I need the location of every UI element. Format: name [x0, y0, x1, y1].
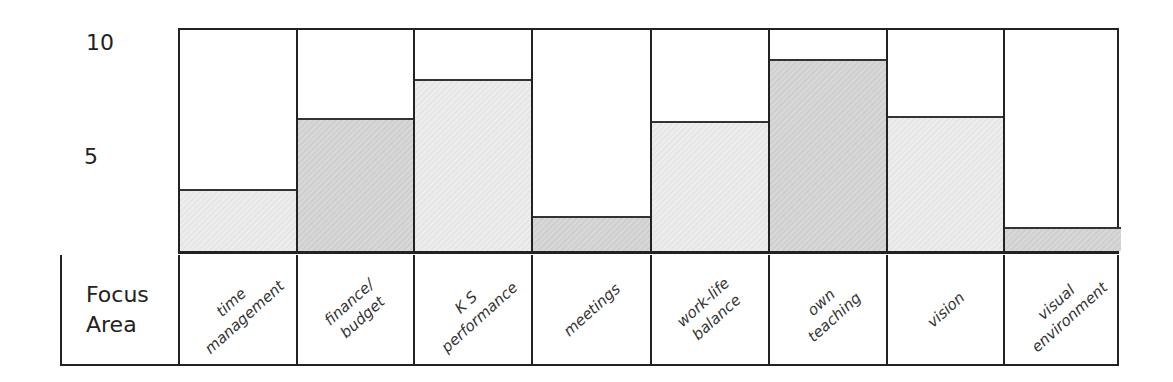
category-label: K Sperformance: [424, 262, 523, 357]
category-label-cell: meetings: [533, 255, 652, 364]
category-label-cell: finance/budget: [298, 255, 415, 364]
category-label: finance/budget: [319, 274, 391, 345]
category-label-line1: meetings: [559, 279, 625, 341]
y-tick-5: 5: [84, 146, 98, 168]
category-label: vision: [922, 287, 968, 331]
category-label: meetings: [559, 279, 625, 341]
bar: [533, 216, 650, 251]
focus-header-line1: Focus: [86, 280, 180, 310]
bar-column: [1005, 30, 1121, 251]
bar-plot-area: [178, 28, 1119, 254]
bar-column: [180, 30, 298, 251]
focus-area-label-row: Focus Area timemanagementfinance/budgetK…: [60, 255, 1119, 366]
category-label-cell: ownteaching: [770, 255, 888, 364]
bar-column: [415, 30, 533, 251]
category-label-line1: vision: [922, 287, 968, 331]
bar: [652, 121, 768, 251]
category-label-cell: vision: [888, 255, 1005, 364]
focus-area-header: Focus Area: [62, 255, 180, 364]
category-label-cell: visualenvironment: [1005, 255, 1121, 364]
bar-column: [533, 30, 652, 251]
focus-header-line2: Area: [86, 310, 180, 340]
bar: [888, 116, 1003, 251]
bar: [1005, 227, 1121, 251]
category-label-cell: work-lifebalance: [652, 255, 770, 364]
category-label-cell: K Sperformance: [415, 255, 533, 364]
bar-column: [652, 30, 770, 251]
bar: [298, 118, 413, 251]
y-tick-10: 10: [86, 32, 114, 54]
bar: [770, 59, 886, 251]
focus-area-header-cell: Focus Area: [62, 255, 180, 364]
bar: [415, 79, 531, 251]
bar-column: [298, 30, 415, 251]
bar: [180, 189, 296, 251]
category-label: visualenvironment: [1014, 262, 1112, 356]
category-label: work-lifebalance: [672, 273, 747, 346]
category-label-cell: timemanagement: [180, 255, 298, 364]
category-label: ownteaching: [790, 273, 866, 347]
bar-column: [888, 30, 1005, 251]
bar-column: [770, 30, 888, 251]
category-label: timemanagement: [187, 261, 289, 358]
